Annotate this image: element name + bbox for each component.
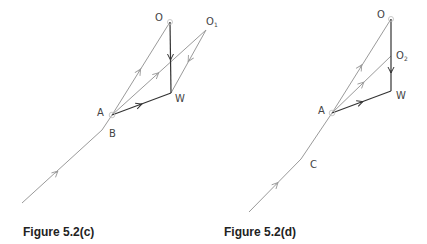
label-o1: O1	[206, 16, 218, 28]
caption-figure-c: Figure 5.2(c)	[23, 225, 94, 239]
line-a-b-end	[22, 115, 112, 203]
label-a: A	[318, 105, 325, 116]
figure-d: O O2 W A C	[249, 9, 408, 212]
line-a-c-end	[249, 113, 332, 212]
label-c: C	[310, 159, 317, 170]
label-o: O	[377, 9, 385, 20]
arrow-icon	[188, 59, 190, 62]
arrow-icon	[139, 69, 141, 72]
label-w: W	[175, 93, 185, 104]
caption-figure-d: Figure 5.2(d)	[224, 225, 296, 239]
label-b: B	[109, 128, 116, 139]
label-a: A	[97, 107, 104, 118]
vector-diagrams: O O1 W A B O O2 W A C	[0, 0, 427, 244]
label-o: O	[155, 12, 163, 23]
arrow-icon	[157, 73, 160, 75]
figure-c: O O1 W A B	[22, 12, 218, 203]
label-w: W	[396, 90, 406, 101]
label-o2: O2	[396, 50, 408, 62]
arrow-icon	[360, 102, 363, 103]
